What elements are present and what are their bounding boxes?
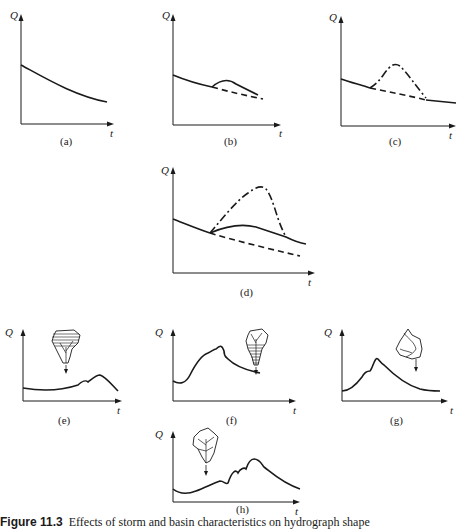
y-axis-arrow-icon bbox=[171, 167, 176, 174]
svg-text:t: t bbox=[279, 127, 283, 139]
svg-text:(b): (b) bbox=[224, 135, 237, 148]
hydrograph-curve bbox=[173, 346, 260, 383]
y-axis-label: Q bbox=[10, 9, 18, 21]
x-axis-arrow-icon bbox=[449, 124, 456, 129]
hydrograph-e: Q t (e) bbox=[0, 325, 160, 445]
panel-b: Q t (b) bbox=[160, 0, 320, 160]
hydrograph-h: Q t (h) bbox=[140, 425, 340, 515]
x-axis-arrow-icon bbox=[107, 122, 114, 127]
catchment-icon bbox=[193, 428, 218, 476]
x-axis-arrow-icon bbox=[293, 500, 300, 505]
x-axis-arrow-icon bbox=[115, 399, 122, 404]
figure-caption: Figure 11.3 Effects of storm and basin c… bbox=[0, 515, 467, 529]
y-axis-arrow-icon bbox=[21, 329, 26, 336]
panel-e: Q t (e) bbox=[0, 325, 160, 445]
panel-c: Q t (c) bbox=[310, 0, 467, 160]
hydrograph-b: Q t (b) bbox=[160, 0, 320, 160]
catchment-upper-hatched-icon bbox=[52, 330, 80, 374]
svg-text:Q: Q bbox=[5, 326, 13, 338]
panel-d: Q t (d) bbox=[140, 165, 340, 340]
svg-text:(c): (c) bbox=[389, 135, 402, 148]
solid-curve bbox=[173, 75, 212, 87]
arrow-down-icon bbox=[204, 471, 208, 476]
svg-text:(d): (d) bbox=[240, 286, 253, 299]
panel-a: Q t (a) bbox=[0, 0, 160, 160]
y-axis-arrow-icon bbox=[339, 16, 344, 23]
svg-text:t: t bbox=[293, 404, 297, 416]
caption-text: Effects of storm and basin characteristi… bbox=[69, 515, 370, 529]
x-axis-arrow-icon bbox=[441, 399, 448, 404]
catchment-icon bbox=[396, 329, 422, 372]
y-axis-arrow-icon bbox=[19, 14, 24, 21]
solid-rise bbox=[210, 225, 306, 244]
x-axis-label: t bbox=[110, 127, 114, 139]
y-axis-arrow-icon bbox=[171, 14, 176, 21]
hydrograph-curve bbox=[173, 459, 300, 493]
svg-text:Q: Q bbox=[161, 164, 169, 176]
x-axis-arrow-icon bbox=[289, 399, 296, 404]
dash-dot-peak bbox=[370, 64, 426, 98]
arrow-down-icon bbox=[64, 369, 68, 374]
hydrograph-d: Q t (d) bbox=[140, 165, 340, 340]
panel-label: (a) bbox=[60, 135, 73, 148]
svg-text:t: t bbox=[117, 404, 121, 416]
svg-text:t: t bbox=[449, 129, 453, 141]
y-axis-arrow-icon bbox=[340, 329, 345, 336]
hydrograph-c: Q t (c) bbox=[310, 0, 467, 160]
svg-text:Q: Q bbox=[329, 11, 337, 23]
catchment-lower-hatched-icon bbox=[246, 329, 268, 375]
hydrograph-curve bbox=[23, 375, 118, 391]
hydrograph-a: Q t (a) bbox=[0, 0, 160, 160]
svg-text:Q: Q bbox=[155, 326, 163, 338]
y-axis-arrow-icon bbox=[171, 329, 176, 336]
x-axis-arrow-icon bbox=[308, 271, 315, 276]
svg-text:(e): (e) bbox=[58, 414, 71, 427]
dashed-recession bbox=[370, 88, 426, 100]
svg-text:(g): (g) bbox=[390, 414, 403, 427]
recession-curve bbox=[21, 65, 107, 102]
hydrograph-curve bbox=[342, 359, 440, 391]
svg-text:t: t bbox=[308, 276, 312, 288]
svg-text:Q: Q bbox=[324, 326, 332, 338]
caption-figure-number: Figure 11.3 bbox=[0, 515, 63, 529]
svg-text:Q: Q bbox=[162, 9, 170, 21]
y-axis-arrow-icon bbox=[171, 431, 176, 438]
svg-text:Q: Q bbox=[155, 428, 163, 440]
arrow-down-icon bbox=[414, 367, 418, 372]
panel-h: Q t (h) bbox=[140, 425, 340, 515]
svg-text:t: t bbox=[450, 404, 454, 416]
